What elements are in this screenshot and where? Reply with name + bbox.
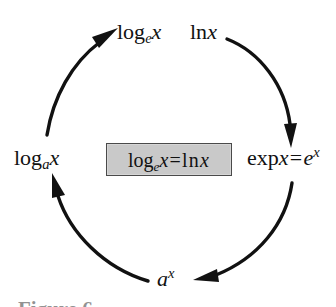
exp-equals-sign: = <box>290 145 304 170</box>
identity-equation: logex=lnx <box>128 150 210 170</box>
a-exponent: x <box>168 265 174 281</box>
label-exp-x-equals-e-to-the-x: expx=ex <box>247 147 320 169</box>
arrowhead-up-to-log-a-x <box>52 173 65 198</box>
arc-a-to-the-x-to-log-a-x <box>58 196 148 281</box>
exp-rhs-base: e <box>304 145 314 170</box>
identity-box: logex=lnx <box>106 143 232 176</box>
log-operator: log <box>117 19 145 44</box>
ln-argument: x <box>207 19 218 44</box>
label-log-base-a-of-x: logax <box>14 147 60 169</box>
identity-equals-sign: = <box>169 149 181 171</box>
arc-ln-x-to-exp-x <box>227 39 290 124</box>
arrowhead-left-to-a-to-the-x <box>193 269 219 282</box>
identity-lhs-argument: x <box>159 149 169 171</box>
arc-log-a-x-to-log-e-x <box>47 42 100 135</box>
identity-rhs-argument: x <box>200 149 210 171</box>
label-natural-log-of-x: lnx <box>190 21 218 43</box>
identity-rhs-operator: ln <box>182 149 200 171</box>
log-a-argument: x <box>49 145 60 170</box>
figure-root: logex lnx logax expx=ex ax logex=lnx Fig… <box>0 0 336 307</box>
exp-operator: exp <box>247 145 279 170</box>
arc-exp-x-to-a-to-the-x <box>216 183 292 275</box>
figure-caption-partial: Figure 6 <box>18 299 318 307</box>
ln-operator: ln <box>190 19 207 44</box>
log-a-operator: log <box>14 145 42 170</box>
identity-lhs-operator: log <box>128 149 154 171</box>
exp-rhs-exponent: x <box>313 144 319 160</box>
exp-argument: x <box>279 145 290 170</box>
label-a-to-the-x: ax <box>157 268 174 290</box>
label-log-base-e-of-x: logex <box>117 21 163 43</box>
log-argument: x <box>152 19 163 44</box>
a-base: a <box>157 266 168 291</box>
